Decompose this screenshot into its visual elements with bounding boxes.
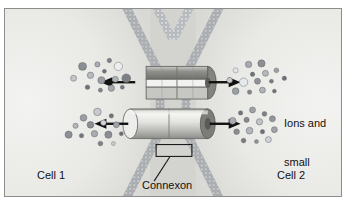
gap-junction-figure: Cell 1 Cell 2 Connexon Ions and small mo… [0, 0, 346, 210]
label-ions-and-small-molecules: Ions and small molecules [284, 91, 334, 197]
connexon-channel-upper [146, 66, 216, 99]
label-ions-line-2: small [284, 156, 334, 169]
connexon-channel-lower [123, 109, 215, 139]
label-ions-line-3: molecules [284, 195, 334, 197]
label-connexon: Connexon [142, 179, 192, 192]
label-ions-line-1: Ions and [284, 117, 334, 130]
label-cell-1: Cell 1 [37, 169, 65, 182]
diagram-canvas: Cell 1 Cell 2 Connexon Ions and small mo… [4, 8, 342, 197]
